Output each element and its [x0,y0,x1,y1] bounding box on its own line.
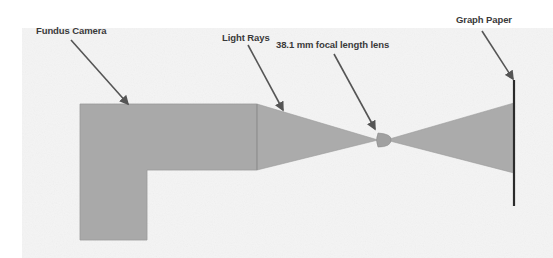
lens-label: 38.1 mm focal length lens [276,39,389,50]
graph-paper-label: Graph Paper [456,14,512,25]
light-rays-label: Light Rays [222,32,270,43]
optical-setup-diagram: Fundus Camera Light Rays 38.1 mm focal l… [0,0,553,258]
fundus-camera-label: Fundus Camera [36,25,107,36]
